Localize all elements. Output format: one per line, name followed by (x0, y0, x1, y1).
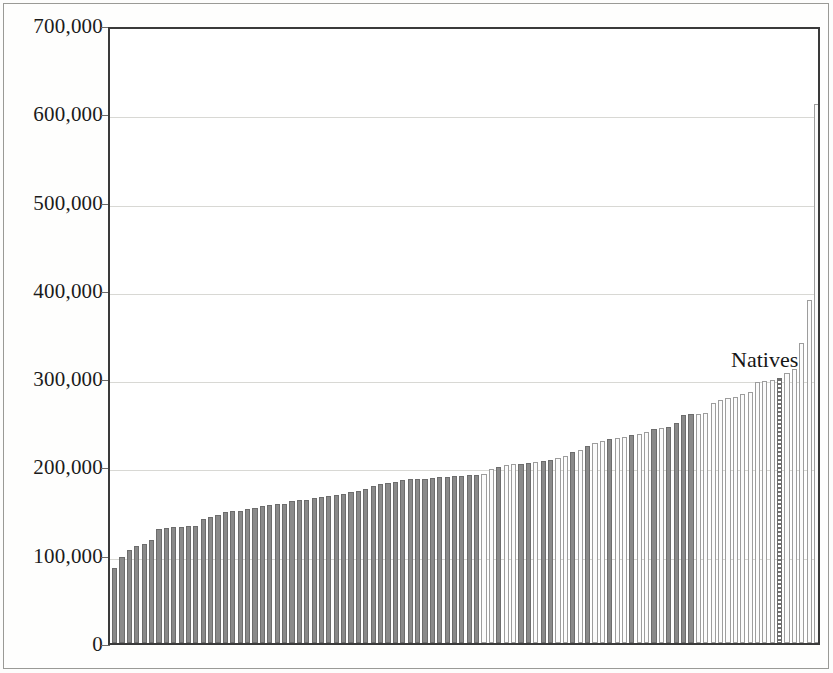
bar (208, 517, 213, 643)
bar (570, 452, 575, 643)
bar (644, 432, 649, 643)
y-axis-tick-label: 600,000 (3, 104, 103, 125)
bar (304, 500, 309, 643)
bar (112, 568, 117, 643)
bar (437, 477, 442, 643)
bar (467, 475, 472, 643)
bar (238, 511, 243, 643)
bar (319, 497, 324, 643)
bar (452, 476, 457, 643)
bar (666, 427, 671, 643)
bar (607, 439, 612, 643)
bar (252, 508, 257, 643)
bar (282, 504, 287, 643)
bar (127, 550, 132, 643)
y-axis-tick-layer: 0100,000200,000300,000400,000500,000600,… (0, 0, 103, 673)
bar (164, 528, 169, 643)
y-axis-tick-label: 500,000 (3, 193, 103, 214)
bar (312, 498, 317, 643)
bar (378, 484, 383, 643)
bar (637, 434, 642, 643)
bar (142, 544, 147, 643)
bar (814, 104, 819, 643)
bar (481, 474, 486, 644)
bar (674, 423, 679, 643)
bar (711, 403, 716, 643)
bar (578, 450, 583, 643)
bar (688, 414, 693, 643)
bar (740, 394, 745, 643)
bar (363, 489, 368, 644)
bar (149, 540, 154, 643)
bar (186, 526, 191, 643)
bar (215, 515, 220, 643)
bar (400, 480, 405, 643)
bar (622, 437, 627, 643)
bar (651, 429, 656, 643)
bar (762, 381, 767, 643)
bar (526, 463, 531, 643)
y-axis-tick-label: 300,000 (3, 369, 103, 390)
bar (156, 529, 161, 643)
bar (430, 478, 435, 643)
bar (777, 378, 782, 643)
bar (415, 479, 420, 643)
bar (792, 369, 797, 643)
bar (784, 373, 789, 643)
bar (326, 496, 331, 643)
bar (171, 527, 176, 643)
bar (718, 400, 723, 643)
bar (511, 464, 516, 643)
bar (230, 511, 235, 643)
bar (179, 527, 184, 643)
bar (385, 483, 390, 643)
bar (348, 492, 353, 643)
bar (755, 382, 760, 643)
plot-area (108, 27, 820, 645)
bar (289, 501, 294, 643)
y-axis-tick-label: 200,000 (3, 457, 103, 478)
bar-chart-figure: 0100,000200,000300,000400,000500,000600,… (0, 0, 833, 673)
bar (585, 446, 590, 643)
bar (533, 462, 538, 643)
bar (703, 413, 708, 643)
bar (592, 443, 597, 643)
bar (489, 469, 494, 643)
bar (334, 495, 339, 643)
bar (733, 397, 738, 643)
bar (548, 460, 553, 643)
bar (629, 435, 634, 643)
bar (615, 438, 620, 643)
y-axis-tick-mark (101, 645, 110, 646)
natives-annotation-label: Natives (731, 349, 798, 371)
bar (748, 392, 753, 643)
y-axis-tick-label: 400,000 (3, 281, 103, 302)
y-axis-tick-label: 0 (3, 634, 103, 655)
bar (807, 300, 812, 643)
bar (518, 464, 523, 643)
bar (341, 494, 346, 643)
bar (193, 526, 198, 643)
bar (134, 546, 139, 643)
bar (275, 504, 280, 643)
bar (459, 476, 464, 643)
bar (408, 479, 413, 643)
bar (267, 505, 272, 643)
bar (297, 500, 302, 643)
bar (371, 486, 376, 643)
bar (555, 458, 560, 643)
bar (474, 475, 479, 643)
y-axis-tick-label: 100,000 (3, 546, 103, 567)
bar (223, 512, 228, 643)
bar (659, 428, 664, 643)
bar-layer (110, 29, 818, 643)
bar (496, 467, 501, 643)
bar (119, 557, 124, 643)
bar (541, 461, 546, 643)
bar (696, 414, 701, 643)
y-axis-tick-label: 700,000 (3, 16, 103, 37)
bar (681, 415, 686, 643)
bar (260, 506, 265, 643)
bar (201, 519, 206, 643)
bar (245, 509, 250, 643)
